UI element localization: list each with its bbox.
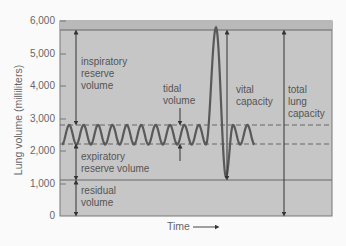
residual-label: residual volume (81, 185, 116, 208)
svg-text:vital: vital (236, 84, 254, 95)
x-axis-label: Time (167, 220, 190, 232)
top-band (60, 21, 332, 30)
svg-text:tidal: tidal (163, 83, 181, 94)
svg-text:capacity: capacity (288, 108, 325, 119)
svg-text:inspiratory: inspiratory (81, 56, 127, 67)
svg-text:total: total (288, 84, 307, 95)
y-axis-label: Lung volume (milliliters) (12, 65, 24, 175)
svg-text:lung: lung (288, 96, 307, 107)
y-tick-1000: 1,000 (30, 178, 55, 189)
y-tick-4000: 4,000 (30, 80, 55, 91)
svg-text:residual: residual (81, 185, 116, 196)
y-tick-6000: 6,000 (30, 15, 55, 26)
svg-text:expiratory: expiratory (81, 151, 125, 162)
y-tick-labels: 6,000 5,000 4,000 3,000 2,000 1,000 0 (30, 15, 55, 221)
y-tick-3000: 3,000 (30, 113, 55, 124)
svg-text:reserve volume: reserve volume (81, 163, 150, 174)
spirogram-chart: 6,000 5,000 4,000 3,000 2,000 1,000 0 Lu… (0, 0, 346, 246)
y-tick-0: 0 (49, 210, 55, 221)
svg-text:volume: volume (81, 197, 114, 208)
svg-text:capacity: capacity (236, 96, 273, 107)
svg-text:reserve: reserve (81, 68, 115, 79)
svg-text:volume: volume (163, 95, 196, 106)
svg-text:volume: volume (81, 80, 114, 91)
y-tick-2000: 2,000 (30, 145, 55, 156)
y-tick-5000: 5,000 (30, 48, 55, 59)
